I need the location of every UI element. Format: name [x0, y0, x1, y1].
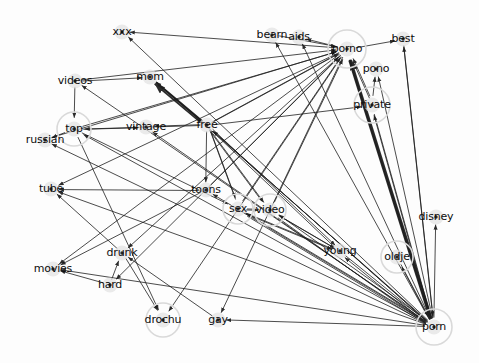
- node-label-russian[interactable]: russian: [26, 133, 64, 146]
- node-label-best[interactable]: best: [392, 32, 415, 45]
- node-label-videos[interactable]: videos: [58, 74, 93, 87]
- node-label-top[interactable]: top: [65, 122, 82, 135]
- node-label-gay[interactable]: gay: [208, 313, 228, 326]
- node-label-video[interactable]: video: [255, 203, 284, 216]
- node-label-hard[interactable]: hard: [98, 278, 122, 291]
- node-label-oldje[interactable]: oldje: [384, 250, 410, 263]
- node-label-toons[interactable]: toons: [191, 183, 220, 196]
- node-label-bearn[interactable]: bearn: [257, 28, 288, 41]
- graph-edge: [246, 214, 332, 250]
- graph-edge: [156, 82, 202, 121]
- graph-edge: [434, 225, 436, 318]
- graph-edge: [221, 57, 343, 313]
- graph-edge: [59, 190, 200, 191]
- node-label-vintage[interactable]: vintage: [126, 120, 166, 133]
- network-graph-canvas: xxxbearnaidspornobestponovideosmomprivat…: [0, 0, 479, 363]
- node-label-mom[interactable]: mom: [136, 70, 164, 83]
- node-label-free[interactable]: free: [197, 118, 218, 131]
- node-label-tube[interactable]: tube: [39, 182, 63, 195]
- node-label-porno[interactable]: porno: [332, 42, 363, 55]
- graph-svg-layer: [0, 0, 479, 363]
- node-label-aids[interactable]: aids: [288, 30, 310, 43]
- node-label-disney[interactable]: disney: [419, 210, 454, 223]
- graph-edge: [126, 258, 158, 311]
- node-label-private[interactable]: private: [353, 98, 391, 111]
- node-label-xxx[interactable]: xxx: [113, 25, 132, 38]
- node-label-porn[interactable]: porn: [422, 320, 446, 333]
- graph-edge: [378, 77, 432, 318]
- node-label-drochu[interactable]: drochu: [145, 313, 182, 326]
- node-label-movies[interactable]: movies: [34, 262, 72, 275]
- node-label-pono[interactable]: pono: [363, 62, 390, 75]
- node-label-drunk[interactable]: drunk: [107, 246, 138, 259]
- graph-edge: [274, 59, 342, 202]
- node-label-sex[interactable]: sex: [229, 202, 247, 215]
- graph-edge: [206, 131, 207, 182]
- node-label-young[interactable]: young: [323, 244, 356, 257]
- graph-edge: [116, 55, 341, 279]
- node-halo-layer: [57, 30, 452, 345]
- graph-edge: [83, 135, 425, 323]
- graph-edge: [74, 87, 75, 118]
- graph-edge: [246, 213, 425, 321]
